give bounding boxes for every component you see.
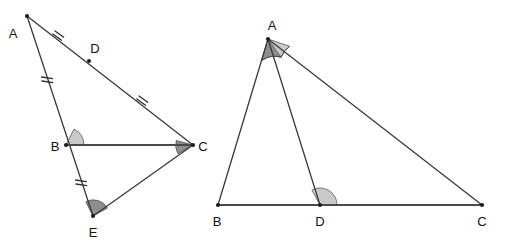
- tick-segment-ab: [42, 77, 53, 83]
- segment-a-to-c-left: [27, 16, 193, 145]
- point-label-c-right: C: [477, 214, 486, 229]
- segment-e-to-c-left: [93, 145, 193, 216]
- tick-segment-be: [76, 180, 87, 186]
- vertex-dot-c-left: [191, 143, 195, 147]
- geometry-svg-canvas: A D B C E: [0, 0, 505, 244]
- point-label-b-left: B: [51, 139, 60, 154]
- segment-a-to-c-right: [268, 39, 482, 205]
- vertex-dot-d-left: [87, 59, 91, 63]
- vertex-dot-a-right: [266, 37, 270, 41]
- point-label-b-right: B: [213, 214, 222, 229]
- vertex-dot-c-right: [480, 203, 484, 207]
- point-label-e-left: E: [89, 225, 98, 240]
- point-label-a-right: A: [268, 18, 277, 33]
- vertex-dot-a-left: [25, 14, 29, 18]
- tick-segment-ad: [53, 31, 64, 40]
- vertex-dot-d-right: [318, 203, 322, 207]
- vertex-dot-b-left: [64, 143, 68, 147]
- point-label-d-left: D: [90, 41, 99, 56]
- vertex-dot-e-left: [91, 214, 95, 218]
- segment-a-to-d-right: [268, 39, 320, 205]
- segment-a-to-b-right: [218, 39, 268, 205]
- tick-segment-dc: [137, 96, 148, 105]
- segment-a-to-e-left: [27, 16, 93, 216]
- right-figure-group: A B D C: [213, 18, 487, 229]
- vertex-dot-b-right: [216, 203, 220, 207]
- point-label-c-left: C: [198, 139, 207, 154]
- geometry-figure-container: A D B C E: [0, 0, 505, 244]
- point-label-a-left: A: [9, 26, 18, 41]
- left-figure-group: A D B C E: [9, 14, 208, 240]
- point-label-d-right: D: [315, 214, 324, 229]
